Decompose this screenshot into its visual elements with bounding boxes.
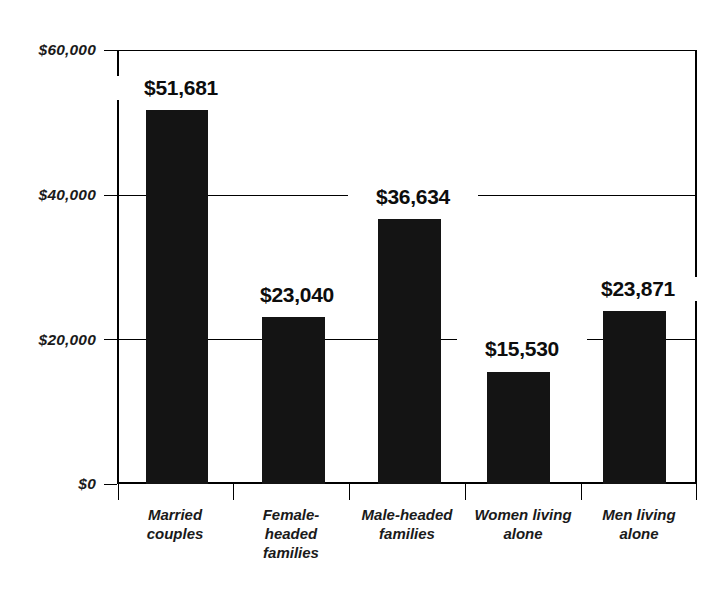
y-axis-label-60000: $60,000 — [39, 42, 96, 58]
bar-value-female-headed-families: $23,040 — [232, 283, 362, 307]
x-axis-label-married-couples: Married couples — [117, 505, 233, 543]
x-tick-mark-left-edge — [118, 484, 119, 500]
bar-married-couples — [146, 110, 208, 484]
x-tick-mark-1 — [233, 484, 234, 500]
bar-value-male-headed-families: $36,634 — [348, 185, 478, 209]
bar-men-living-alone — [603, 311, 666, 484]
bar-male-headed-families — [378, 219, 441, 484]
y-tick-mark-40000 — [104, 195, 117, 196]
bar-chart: $60,000 $40,000 $20,000 $0 $51,681 $23,0… — [0, 0, 728, 591]
y-axis-label-0: $0 — [78, 476, 96, 492]
y-tick-mark-20000 — [104, 339, 117, 340]
x-axis-label-men-living-alone: Men living alone — [581, 505, 697, 543]
bar-women-living-alone — [487, 372, 550, 484]
x-axis-label-women-living-alone: Women living alone — [463, 505, 583, 543]
y-axis-label-20000: $20,000 — [39, 332, 96, 348]
x-axis-label-male-headed-families: Male-headed families — [347, 505, 467, 543]
y-axis-label-40000: $40,000 — [39, 187, 96, 203]
y-tick-mark-60000 — [104, 50, 117, 51]
x-tick-mark-3 — [465, 484, 466, 500]
x-axis-label-female-headed-families: Female- headed families — [233, 505, 349, 563]
bar-female-headed-families — [262, 317, 325, 484]
bar-value-women-living-alone: $15,530 — [457, 337, 587, 361]
x-tick-mark-right-edge — [696, 484, 697, 500]
x-tick-mark-2 — [349, 484, 350, 500]
x-tick-mark-4 — [581, 484, 582, 500]
bar-value-men-living-alone: $23,871 — [573, 277, 703, 301]
y-tick-mark-0 — [104, 484, 117, 485]
bar-value-married-couples: $51,681 — [116, 76, 246, 100]
